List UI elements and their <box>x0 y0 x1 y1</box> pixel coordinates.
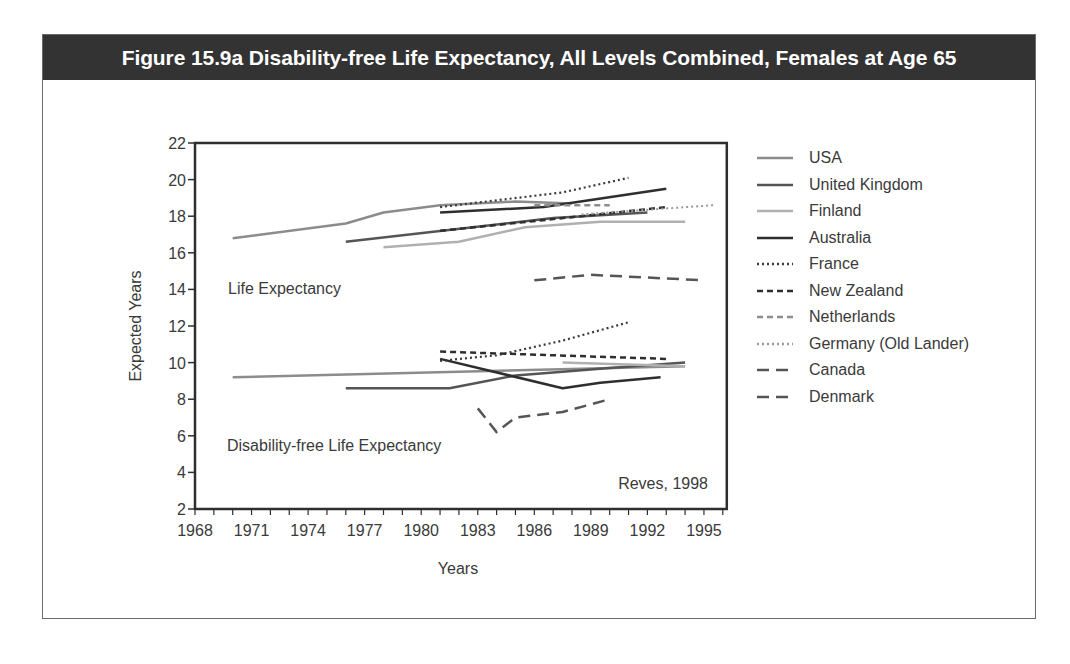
legend-item: Canada <box>755 357 969 384</box>
legend-swatch-icon <box>755 206 795 216</box>
series-line-united-kingdom-life-expectancy <box>346 213 648 242</box>
y-tick-label: 18 <box>168 208 186 225</box>
legend-item: USA <box>755 145 969 172</box>
source-note: Reves, 1998 <box>618 475 708 492</box>
legend-item: Finland <box>755 198 969 225</box>
legend-label: Canada <box>809 361 865 379</box>
legend-label: New Zealand <box>809 282 903 300</box>
series-line-finland-life-expectancy <box>384 222 686 248</box>
legend-item: United Kingdom <box>755 172 969 199</box>
x-axis-label: Years <box>438 560 478 577</box>
legend-swatch-icon <box>755 339 795 349</box>
x-tick-label: 1986 <box>517 522 553 539</box>
legend-item: Netherlands <box>755 304 969 331</box>
y-tick-label: 2 <box>177 501 186 518</box>
x-tick-label: 1980 <box>403 522 439 539</box>
legend-swatch-icon <box>755 365 795 375</box>
y-tick-label: 22 <box>168 135 186 152</box>
legend-label: Australia <box>809 229 871 247</box>
legend-label: Denmark <box>809 388 874 406</box>
legend-label: United Kingdom <box>809 176 923 194</box>
annotation-life-expectancy: Life Expectancy <box>228 280 341 297</box>
x-tick-label: 1971 <box>234 522 270 539</box>
y-tick-label: 10 <box>168 355 186 372</box>
x-tick-label: 1968 <box>177 522 213 539</box>
legend-swatch-icon <box>755 286 795 296</box>
legend-label: Finland <box>809 202 861 220</box>
series-line-canada-life-expectancy <box>534 275 704 281</box>
chart-legend: USAUnited KingdomFinlandAustraliaFranceN… <box>755 145 969 410</box>
legend-swatch-icon <box>755 259 795 269</box>
series-line-denmark-disability-free <box>478 399 610 432</box>
annotation-disability-free: Disability-free Life Expectancy <box>227 437 441 454</box>
y-tick-label: 16 <box>168 245 186 262</box>
legend-item: France <box>755 251 969 278</box>
legend-item: New Zealand <box>755 278 969 305</box>
chart-series <box>233 178 714 432</box>
series-line-australia-life-expectancy <box>440 189 666 213</box>
x-tick-label: 1977 <box>347 522 383 539</box>
y-tick-label: 12 <box>168 318 186 335</box>
legend-item: Australia <box>755 225 969 252</box>
legend-label: USA <box>809 149 842 167</box>
legend-swatch-icon <box>755 233 795 243</box>
series-line-new-zealand-disability-free <box>440 352 666 359</box>
x-tick-label: 1989 <box>573 522 609 539</box>
legend-item: Germany (Old Lander) <box>755 331 969 358</box>
y-tick-label: 20 <box>168 172 186 189</box>
y-tick-label: 14 <box>168 281 186 298</box>
legend-swatch-icon <box>755 312 795 322</box>
x-tick-label: 1995 <box>686 522 722 539</box>
x-tick-label: 1983 <box>460 522 496 539</box>
legend-label: Netherlands <box>809 308 895 326</box>
x-tick-label: 1974 <box>290 522 326 539</box>
plot-area <box>195 143 727 509</box>
y-axis-label: Expected Years <box>127 270 144 381</box>
y-tick-label: 4 <box>177 464 186 481</box>
y-tick-label: 8 <box>177 391 186 408</box>
legend-label: France <box>809 255 859 273</box>
legend-swatch-icon <box>755 180 795 190</box>
x-tick-label: 1992 <box>630 522 666 539</box>
legend-swatch-icon <box>755 392 795 402</box>
y-tick-label: 6 <box>177 428 186 445</box>
legend-item: Denmark <box>755 384 969 411</box>
legend-label: Germany (Old Lander) <box>809 335 969 353</box>
series-line-united-kingdom-disability-free <box>346 363 685 389</box>
legend-swatch-icon <box>755 153 795 163</box>
